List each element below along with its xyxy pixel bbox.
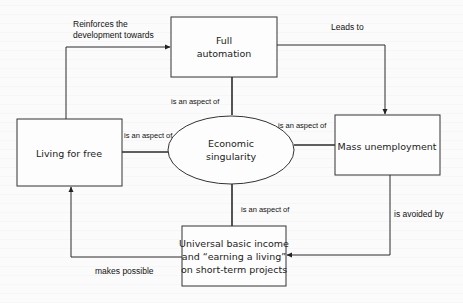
edge-fa-aspect-label: is an aspect of	[171, 97, 220, 106]
edge-reinforces-label-1: Reinforces the	[73, 19, 128, 29]
edge-avoided-by-line	[287, 175, 390, 255]
edge-makes-possible-line	[71, 187, 182, 257]
edge-makes-possible-label: makes possible	[95, 266, 154, 276]
edge-reinforces-line	[66, 47, 170, 119]
node-ubi: Universal basic income and “earning a li…	[179, 226, 289, 286]
node-ubi-line-3: on short-term projects	[181, 264, 287, 275]
edge-lff-aspect-label: is an aspect of	[124, 131, 173, 140]
node-economic-singularity-line-1: Economic	[208, 138, 254, 149]
node-economic-singularity: Economic singularity	[168, 116, 294, 184]
node-living-for-free-label: Living for free	[36, 148, 102, 159]
node-full-automation-line-2: automation	[197, 48, 252, 59]
edge-reinforces-label-2: development towards	[73, 30, 154, 40]
node-mass-unemployment-label: Mass unemployment	[337, 141, 436, 152]
node-living-for-free: Living for free	[17, 119, 122, 186]
edge-avoided-by-label: is avoided by	[394, 209, 444, 219]
concept-diagram: Full automation Living for free Economic…	[0, 0, 463, 303]
node-full-automation: Full automation	[171, 17, 277, 77]
node-full-automation-line-1: Full	[216, 35, 232, 46]
node-ubi-line-1: Universal basic income	[179, 238, 289, 249]
edge-leads-to-line	[277, 45, 385, 114]
node-ubi-line-2: and “earning a living”	[182, 251, 286, 262]
edge-mu-aspect-label: is an aspect of	[278, 121, 327, 130]
node-economic-singularity-line-2: singularity	[206, 151, 256, 162]
edge-leads-to-label: Leads to	[331, 22, 364, 32]
node-mass-unemployment: Mass unemployment	[335, 115, 440, 175]
edge-ubi-aspect-label: is an aspect of	[241, 205, 290, 214]
